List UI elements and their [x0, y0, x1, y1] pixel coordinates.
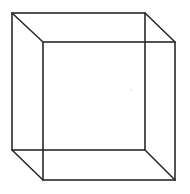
top-right-connecting-edge — [145, 13, 175, 42]
cube-diagram — [0, 0, 190, 194]
bottom-right-connecting-edge — [145, 150, 175, 180]
bottom-left-connecting-edge — [12, 150, 43, 180]
scan-speck — [130, 89, 132, 91]
back-face-square — [12, 13, 145, 150]
cube-svg — [0, 0, 190, 194]
top-left-connecting-edge — [12, 13, 43, 42]
